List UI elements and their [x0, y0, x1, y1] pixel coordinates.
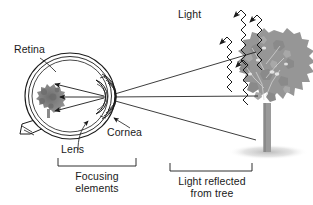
label-cornea: Cornea	[107, 127, 142, 139]
figure-canvas: Retina Lens Cornea Light Focusing elemen…	[0, 0, 313, 205]
label-focusing-line1: Focusing	[57, 171, 137, 183]
label-focusing-line2: elements	[57, 183, 137, 195]
light-wave-3	[220, 37, 232, 92]
diagram-svg	[0, 0, 313, 205]
label-reflected-line2: from tree	[168, 188, 256, 200]
focusing-elements-bracket	[58, 158, 136, 166]
label-lens: Lens	[61, 144, 84, 156]
label-reflected-line1: Light reflected	[168, 176, 256, 188]
eye-sclera	[25, 53, 115, 139]
eyeball	[20, 53, 116, 139]
reflected-ray-mid	[108, 96, 258, 97]
reflected-ray-top	[108, 52, 256, 96]
light-reflected-bracket	[170, 163, 252, 171]
tree	[228, 28, 313, 160]
label-retina: Retina	[14, 44, 45, 56]
label-light: Light	[178, 9, 201, 21]
